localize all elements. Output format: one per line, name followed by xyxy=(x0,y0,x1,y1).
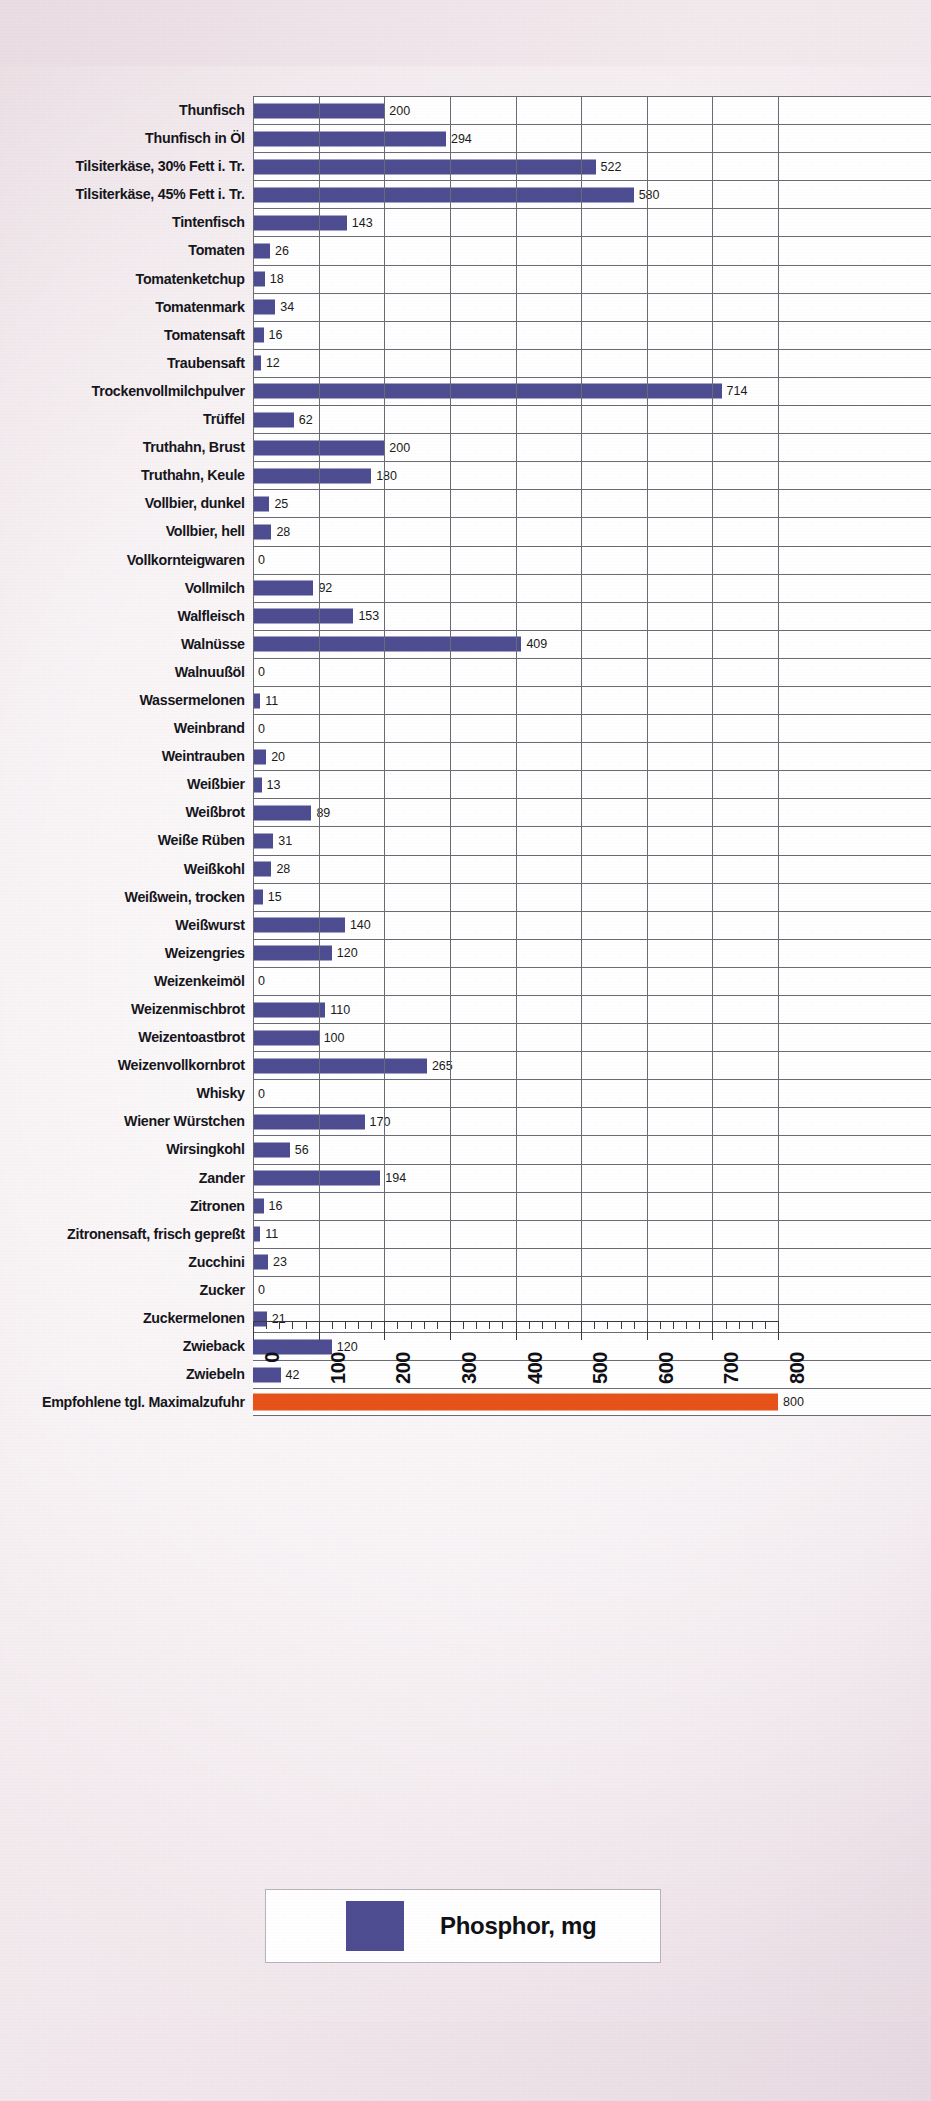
axis-tick-label: 500 xyxy=(589,1352,612,1384)
legend-swatch-phosphor xyxy=(346,1901,404,1951)
axis-tick-minor xyxy=(529,1321,530,1329)
category-label: Wirsingkohl xyxy=(20,1135,253,1163)
chart-row: Vollbier, dunkel25 xyxy=(0,489,931,517)
axis-tick-major xyxy=(516,1321,517,1340)
bar-value-label: 0 xyxy=(253,666,265,679)
category-label: Zitronen xyxy=(20,1192,253,1220)
bar-value-label: 15 xyxy=(263,891,282,904)
chart-row: Tomatenketchup18 xyxy=(0,265,931,293)
value-bar xyxy=(253,609,353,624)
axis-tick-minor xyxy=(476,1321,477,1329)
plot-cell: 120 xyxy=(253,939,931,967)
category-label: Traubensaft xyxy=(20,349,253,377)
plot-cell: 110 xyxy=(253,995,931,1023)
phosphor-bar-chart: Thunfisch200Thunfisch in Öl294Tilsiterkä… xyxy=(0,96,931,1321)
category-label: Weißbier xyxy=(20,770,253,798)
value-bar xyxy=(253,159,596,174)
category-label: Tilsiterkäse, 45% Fett i. Tr. xyxy=(20,180,253,208)
bar-value-label: 0 xyxy=(253,554,265,567)
axis-tick-major xyxy=(581,1321,582,1340)
plot-cell: 714 xyxy=(253,377,931,405)
axis-tick-minor xyxy=(673,1321,674,1329)
plot-cell: 0 xyxy=(253,1079,931,1107)
chart-row: Weizenvollkornbrot265 xyxy=(0,1051,931,1079)
bar-value-label: 194 xyxy=(380,1172,406,1185)
value-bar xyxy=(253,1255,268,1270)
axis-tick-label: 700 xyxy=(720,1352,743,1384)
category-label: Thunfisch in Öl xyxy=(20,124,253,152)
bar-value-label: 13 xyxy=(262,779,281,792)
value-bar xyxy=(253,215,347,230)
plot-cell: 200 xyxy=(253,433,931,461)
plot-cell: 100 xyxy=(253,1023,931,1051)
category-label: Walnüsse xyxy=(20,630,253,658)
value-bar xyxy=(253,1002,325,1017)
category-label: Weintrauben xyxy=(20,742,253,770)
value-bar xyxy=(253,440,384,455)
axis-tick-minor xyxy=(345,1321,346,1329)
category-label: Vollbier, hell xyxy=(20,517,253,545)
plot-cell: 0 xyxy=(253,1276,931,1304)
category-label: Thunfisch xyxy=(20,96,253,124)
value-bar xyxy=(253,131,446,146)
bar-value-label: 100 xyxy=(319,1031,345,1044)
axis-tick-minor xyxy=(765,1321,766,1329)
plot-cell: 15 xyxy=(253,883,931,911)
chart-row: Weiße Rüben31 xyxy=(0,826,931,854)
axis-tick-major xyxy=(450,1321,451,1340)
value-bar xyxy=(253,496,269,511)
plot-cell: 16 xyxy=(253,321,931,349)
value-bar xyxy=(253,1227,260,1242)
plot-cell: 26 xyxy=(253,236,931,264)
plot-cell: 62 xyxy=(253,405,931,433)
chart-row: Weißkohl28 xyxy=(0,855,931,883)
plot-cell: 194 xyxy=(253,1164,931,1192)
axis-tick-minor xyxy=(739,1321,740,1329)
plot-cell: 580 xyxy=(253,180,931,208)
chart-row: Tomatensaft16 xyxy=(0,321,931,349)
chart-row: Vollmilch92 xyxy=(0,574,931,602)
plot-cell: 16 xyxy=(253,1192,931,1220)
chart-row: Tomaten26 xyxy=(0,236,931,264)
chart-row: Zander194 xyxy=(0,1164,931,1192)
category-label: Zander xyxy=(20,1164,253,1192)
axis-tick-label: 300 xyxy=(458,1352,481,1384)
axis-tick-minor xyxy=(411,1321,412,1329)
bar-value-label: 28 xyxy=(271,526,290,539)
category-label: Weizenkeimöl xyxy=(20,967,253,995)
chart-row: Weizenkeimöl0 xyxy=(0,967,931,995)
chart-row: Tilsiterkäse, 30% Fett i. Tr.522 xyxy=(0,152,931,180)
chart-row: Wiener Würstchen170 xyxy=(0,1107,931,1135)
bar-value-label: 11 xyxy=(260,694,278,707)
axis-tick-major xyxy=(319,1321,320,1340)
plot-cell: 0 xyxy=(253,714,931,742)
category-label: Empfohlene tgl. Maximalzufuhr xyxy=(20,1388,253,1416)
chart-row: Tintenfisch143 xyxy=(0,208,931,236)
bar-value-label: 409 xyxy=(521,638,547,651)
chart-row: Trockenvollmilchpulver714 xyxy=(0,377,931,405)
value-bar xyxy=(253,300,275,315)
value-bar xyxy=(253,328,264,343)
value-bar xyxy=(253,918,345,933)
chart-rows: Thunfisch200Thunfisch in Öl294Tilsiterkä… xyxy=(0,96,931,1416)
plot-cell: 153 xyxy=(253,602,931,630)
plot-cell: 0 xyxy=(253,546,931,574)
bar-value-label: 28 xyxy=(271,863,290,876)
category-label: Truthahn, Keule xyxy=(20,461,253,489)
category-label: Weizenmischbrot xyxy=(20,995,253,1023)
category-label: Tintenfisch xyxy=(20,208,253,236)
axis-tick-minor xyxy=(424,1321,425,1329)
axis-tick-label: 800 xyxy=(786,1352,809,1384)
bar-value-label: 34 xyxy=(275,301,294,314)
category-label: Weißkohl xyxy=(20,855,253,883)
category-label: Tomatenmark xyxy=(20,293,253,321)
axis-tick-minor xyxy=(332,1321,333,1329)
axis-tick-minor xyxy=(634,1321,635,1329)
category-label: Tomatensaft xyxy=(20,321,253,349)
plot-cell: 31 xyxy=(253,826,931,854)
chart-row: Walnuußöl0 xyxy=(0,658,931,686)
axis-tick-minor xyxy=(752,1321,753,1329)
axis-tick-minor xyxy=(542,1321,543,1329)
category-label: Wiener Würstchen xyxy=(20,1107,253,1135)
chart-row: Truthahn, Keule180 xyxy=(0,461,931,489)
